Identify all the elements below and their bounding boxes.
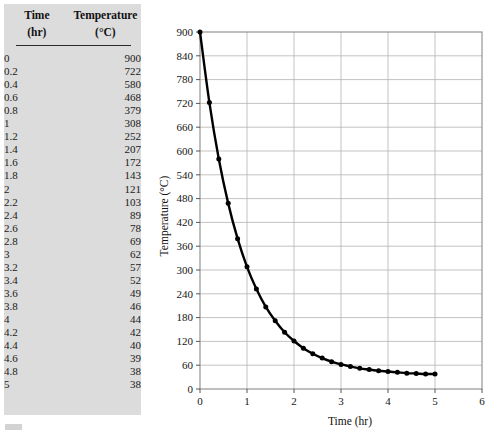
- cell-temperature: 40: [70, 339, 141, 352]
- cell-time: 0.8: [4, 104, 70, 117]
- table-row: 2.489: [4, 209, 141, 222]
- grid-lines: [200, 32, 482, 389]
- cell-time: 1.6: [4, 156, 70, 169]
- x-tick-label: 6: [479, 395, 485, 407]
- column-header-time: Time: [4, 4, 70, 26]
- cell-temperature: 46: [70, 300, 141, 313]
- data-point: [207, 100, 212, 105]
- cell-temperature: 39: [70, 352, 141, 365]
- table-row: 0.8379: [4, 104, 141, 117]
- cell-temperature: 52: [70, 274, 141, 287]
- data-point: [263, 304, 268, 309]
- y-tick-label: 0: [188, 383, 194, 395]
- data-point: [329, 359, 334, 364]
- cell-temperature: 308: [70, 117, 141, 130]
- y-tick-label: 480: [177, 192, 194, 204]
- scan-artifact: [5, 424, 22, 430]
- data-point: [395, 370, 400, 375]
- data-point: [245, 264, 250, 269]
- y-tick-label: 720: [177, 97, 194, 109]
- table-row: 444: [4, 313, 141, 326]
- table-row: 2.2103: [4, 196, 141, 209]
- table-header-row-titles: Time Temperature: [4, 4, 141, 26]
- cell-temperature: 580: [70, 78, 141, 91]
- cell-temperature: 42: [70, 326, 141, 339]
- table-row: 1.8143: [4, 169, 141, 182]
- temperature-time-table: Time Temperature (hr) (°C) 09000.27220.4…: [4, 4, 141, 391]
- table-row: 3.257: [4, 261, 141, 274]
- cell-time: 4.8: [4, 365, 70, 378]
- data-point: [216, 156, 221, 161]
- table-row: 538: [4, 378, 141, 391]
- cell-time: 5: [4, 378, 70, 391]
- data-table-panel: Time Temperature (hr) (°C) 09000.27220.4…: [4, 4, 141, 415]
- data-point: [198, 30, 203, 35]
- data-point: [367, 367, 372, 372]
- cell-time: 4: [4, 313, 70, 326]
- cell-time: 0.4: [4, 78, 70, 91]
- axis-ticks: [196, 32, 482, 393]
- y-tick-label: 660: [177, 121, 194, 133]
- data-point: [301, 346, 306, 351]
- header-divider: [4, 39, 141, 52]
- cell-time: 2.8: [4, 235, 70, 248]
- data-point: [433, 371, 438, 376]
- cell-time: 1.4: [4, 143, 70, 156]
- table-body: 09000.27220.45800.64680.837913081.22521.…: [4, 52, 141, 391]
- cell-temperature: 468: [70, 91, 141, 104]
- y-axis-title: Temperature (°C): [158, 175, 171, 256]
- data-point: [386, 369, 391, 374]
- y-tick-label: 300: [177, 264, 194, 276]
- cell-time: 3: [4, 248, 70, 261]
- table-row: 1.4207: [4, 143, 141, 156]
- data-point-markers: [198, 30, 438, 377]
- cell-time: 2.2: [4, 196, 70, 209]
- table-header-rule-row: [4, 39, 141, 52]
- data-point: [320, 356, 325, 361]
- cell-time: 0.6: [4, 91, 70, 104]
- table-header: Time Temperature (hr) (°C): [4, 4, 141, 52]
- cell-time: 3.2: [4, 261, 70, 274]
- cell-time: 3.4: [4, 274, 70, 287]
- table-row: 0.4580: [4, 78, 141, 91]
- y-axis-tick-labels: 0601201802403003604204805406006607207808…: [177, 26, 194, 395]
- cell-time: 0: [4, 52, 70, 65]
- data-point: [339, 362, 344, 367]
- cell-time: 2.4: [4, 209, 70, 222]
- cell-time: 2.6: [4, 222, 70, 235]
- table-row: 4.639: [4, 352, 141, 365]
- x-tick-label: 2: [291, 395, 297, 407]
- y-tick-label: 120: [177, 335, 194, 347]
- cell-time: 3.6: [4, 287, 70, 300]
- cell-temperature: 49: [70, 287, 141, 300]
- data-point: [376, 368, 381, 373]
- cell-temperature: 38: [70, 378, 141, 391]
- cell-temperature: 121: [70, 183, 141, 196]
- y-tick-label: 360: [177, 240, 194, 252]
- y-tick-label: 540: [177, 169, 194, 181]
- table-row: 3.846: [4, 300, 141, 313]
- y-tick-label: 840: [177, 50, 194, 62]
- data-point: [404, 371, 409, 376]
- table-row: 1.2252: [4, 130, 141, 143]
- column-header-time-unit: (hr): [4, 26, 70, 39]
- x-axis-tick-labels: 0123456: [197, 395, 485, 407]
- cell-temperature: 44: [70, 313, 141, 326]
- data-point: [226, 201, 231, 206]
- cell-time: 4.6: [4, 352, 70, 365]
- x-tick-label: 4: [385, 395, 391, 407]
- table-row: 0.6468: [4, 91, 141, 104]
- table-row: 3.452: [4, 274, 141, 287]
- data-point: [357, 366, 362, 371]
- cell-time: 1.2: [4, 130, 70, 143]
- y-tick-label: 60: [182, 359, 194, 371]
- chart-svg: 0601201802403003604204805406006607207808…: [155, 14, 490, 439]
- table-header-row-units: (hr) (°C): [4, 26, 141, 39]
- x-tick-label: 5: [432, 395, 438, 407]
- cell-temperature: 172: [70, 156, 141, 169]
- cell-time: 3.8: [4, 300, 70, 313]
- y-tick-label: 240: [177, 288, 194, 300]
- x-axis-title: Time (hr): [328, 415, 372, 428]
- y-tick-label: 180: [177, 311, 194, 323]
- cell-time: 2: [4, 183, 70, 196]
